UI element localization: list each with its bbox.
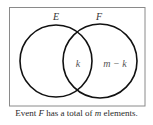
set-label-f: F <box>95 11 103 22</box>
f-only-region-label: m − k <box>103 58 127 69</box>
figure-caption: Event F has a total of m elements. <box>0 108 153 118</box>
caption-middle: has a total of <box>44 108 95 118</box>
circle-e <box>20 25 92 97</box>
venn-diagram: E F k m − k <box>0 0 153 125</box>
intersection-label: k <box>76 58 81 69</box>
caption-suffix: elements. <box>101 108 138 118</box>
set-label-e: E <box>52 11 59 22</box>
universal-set-box <box>10 8 146 107</box>
caption-prefix: Event <box>15 108 38 118</box>
